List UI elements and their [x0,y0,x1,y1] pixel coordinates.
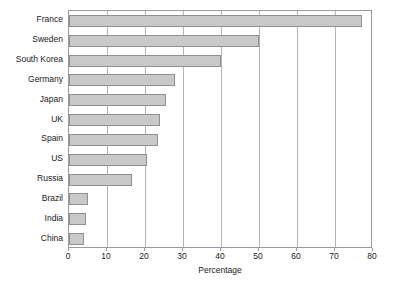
y-axis-label-south-korea: South Korea [0,55,63,64]
y-axis-label-uk: UK [0,115,63,124]
bar-brazil [69,193,88,205]
bar-chart: FranceSwedenSouth KoreaGermanyJapanUKSpa… [0,0,401,289]
y-axis-label-japan: Japan [0,95,63,104]
bar-row [69,193,371,205]
x-axis-title: Percentage [68,266,372,275]
y-axis-label-china: China [0,234,63,243]
x-tick-label-70: 70 [329,252,338,261]
bar-row [69,74,371,86]
bar-row [69,35,371,47]
y-axis-label-germany: Germany [0,75,63,84]
bar-row [69,55,371,67]
bar-south-korea [69,55,221,67]
bar-japan [69,94,166,106]
x-axis-ticks: 01020304050607080 [68,248,372,262]
y-axis-label-india: India [0,214,63,223]
bar-china [69,233,84,245]
bar-row [69,114,371,126]
bar-uk [69,114,160,126]
y-axis-label-france: France [0,15,63,24]
y-axis-label-spain: Spain [0,134,63,143]
x-tick-label-60: 60 [291,252,300,261]
bar-russia [69,174,132,186]
plot-area [68,10,372,248]
y-axis-label-us: US [0,154,63,163]
bar-india [69,213,86,225]
x-tick-label-20: 20 [139,252,148,261]
bar-row [69,15,371,27]
bar-us [69,154,147,166]
bar-row [69,233,371,245]
x-tick-label-30: 30 [177,252,186,261]
x-tick-label-0: 0 [66,252,71,261]
bars-layer [69,11,371,247]
y-axis-labels: FranceSwedenSouth KoreaGermanyJapanUKSpa… [0,10,63,248]
bar-spain [69,134,158,146]
x-tick-label-10: 10 [101,252,110,261]
bar-germany [69,74,175,86]
bar-row [69,174,371,186]
bar-row [69,213,371,225]
bar-france [69,15,362,27]
bar-row [69,134,371,146]
x-tick-label-40: 40 [215,252,224,261]
bar-row [69,94,371,106]
bar-row [69,154,371,166]
bar-sweden [69,35,259,47]
x-tick-label-50: 50 [253,252,262,261]
y-axis-label-russia: Russia [0,174,63,183]
y-axis-label-brazil: Brazil [0,194,63,203]
y-axis-label-sweden: Sweden [0,35,63,44]
x-tick-label-80: 80 [367,252,376,261]
